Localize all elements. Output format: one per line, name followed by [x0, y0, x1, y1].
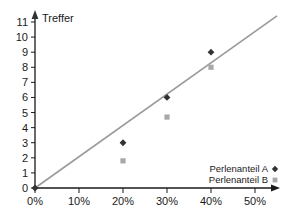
legend-marker-square-icon — [273, 178, 278, 183]
y-tick-label: 6 — [22, 91, 28, 103]
y-axis-title: Treffer — [42, 12, 74, 24]
y-tick-label: 7 — [22, 76, 28, 88]
legend-item: Perlenanteil A — [209, 163, 278, 174]
x-tick-label: 10% — [68, 195, 90, 207]
y-tick-label: 3 — [22, 137, 28, 149]
x-tick-label: 30% — [156, 195, 178, 207]
x-tick-label: 20% — [112, 195, 134, 207]
y-axis-arrow-icon — [32, 10, 39, 19]
y-tick-label: 11 — [17, 16, 28, 28]
x-tick-label: 0% — [27, 195, 43, 207]
chart-legend: Perlenanteil APerlenanteil B — [209, 163, 278, 185]
legend-label: Perlenanteil B — [209, 174, 268, 185]
y-tick-group: 01234567891011 — [16, 16, 35, 194]
x-tick-label: 40% — [200, 195, 222, 207]
x-axis-arrow-icon — [271, 185, 280, 192]
x-tick-label: 50% — [244, 195, 266, 207]
y-tick-label: 8 — [22, 61, 28, 73]
y-tick-label: 1 — [22, 167, 28, 179]
data-point-diamond — [120, 139, 127, 146]
y-tick-label: 2 — [22, 152, 28, 164]
data-point-square — [208, 65, 213, 70]
y-tick-label: 4 — [22, 122, 28, 134]
y-tick-label: 0 — [22, 182, 28, 194]
data-point-square — [164, 114, 169, 119]
data-point-square — [120, 158, 125, 163]
data-point-diamond — [208, 49, 215, 56]
x-axis: 0%10%20%30%40%50% — [27, 185, 280, 207]
data-series — [120, 65, 213, 164]
x-tick-group: 0%10%20%30%40%50% — [27, 188, 266, 207]
y-tick-label: 5 — [22, 107, 28, 119]
legend-marker-diamond-icon — [272, 166, 278, 172]
chart-container: 01234567891011 Treffer 0%10%20%30%40%50%… — [0, 0, 286, 211]
legend-label: Perlenanteil A — [209, 163, 268, 174]
legend-item: Perlenanteil B — [209, 174, 278, 185]
y-tick-label: 10 — [16, 31, 28, 43]
scatter-plot: 01234567891011 Treffer 0%10%20%30%40%50%… — [0, 0, 286, 211]
y-tick-label: 9 — [22, 46, 28, 58]
